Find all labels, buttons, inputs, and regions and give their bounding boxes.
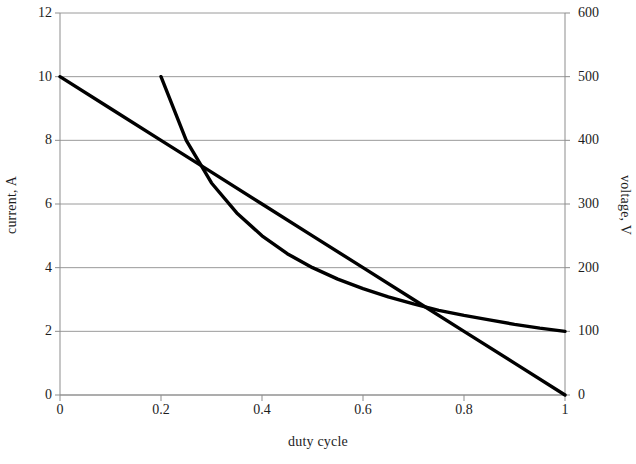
- plot-area: [0, 0, 636, 464]
- data-series: [60, 77, 565, 395]
- axis-ticks: [55, 13, 570, 401]
- series-line-current: [60, 77, 565, 395]
- chart-figure: current, A voltage, V duty cycle 0246810…: [0, 0, 636, 464]
- gridlines: [60, 13, 565, 395]
